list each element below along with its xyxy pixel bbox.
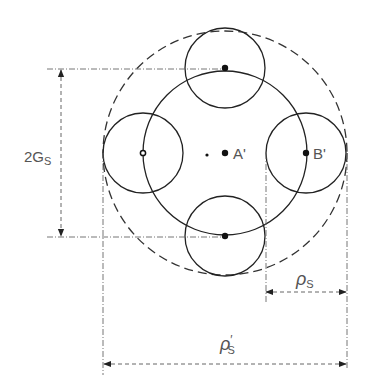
point-a-prime bbox=[222, 150, 228, 156]
twist-geometry-diagram: A' B' 2GS ρS ρ′S bbox=[0, 0, 367, 389]
point-left-open bbox=[140, 150, 145, 155]
label-a-prime: A' bbox=[233, 145, 246, 162]
label-rho-s: ρS bbox=[295, 269, 314, 290]
label-b-prime: B' bbox=[313, 145, 326, 162]
point-top bbox=[222, 65, 228, 71]
point-b-prime bbox=[303, 150, 309, 156]
label-rho-s-prime: ρ′S bbox=[219, 333, 235, 356]
point-bottom bbox=[222, 233, 228, 239]
small-dot bbox=[205, 153, 208, 156]
label-2gs: 2GS bbox=[24, 148, 51, 167]
